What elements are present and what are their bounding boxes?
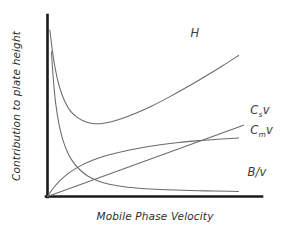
- x-axis-title: Mobile Phase Velocity: [96, 210, 214, 222]
- curve-h: [50, 30, 239, 124]
- chart-curves: [48, 30, 244, 197]
- label-h-curve: H: [191, 26, 200, 40]
- label-cm-v-curve: Cmv: [250, 123, 273, 139]
- chart-canvas: H Csv Cmv B/v Contribution to plate heig…: [0, 0, 286, 231]
- label-cs-v-curve: Csv: [250, 103, 269, 119]
- chart-axes: [46, 15, 262, 197]
- y-axis-title: Contribution to plate height: [10, 30, 22, 181]
- van-deemter-plot-figure: H Csv Cmv B/v Contribution to plate heig…: [0, 0, 286, 231]
- curve-cs-v: [48, 125, 244, 196]
- curve-cm-v: [48, 138, 239, 197]
- label-b-v-curve: B/v: [247, 165, 266, 179]
- chart-annotations: H Csv Cmv B/v: [191, 26, 274, 179]
